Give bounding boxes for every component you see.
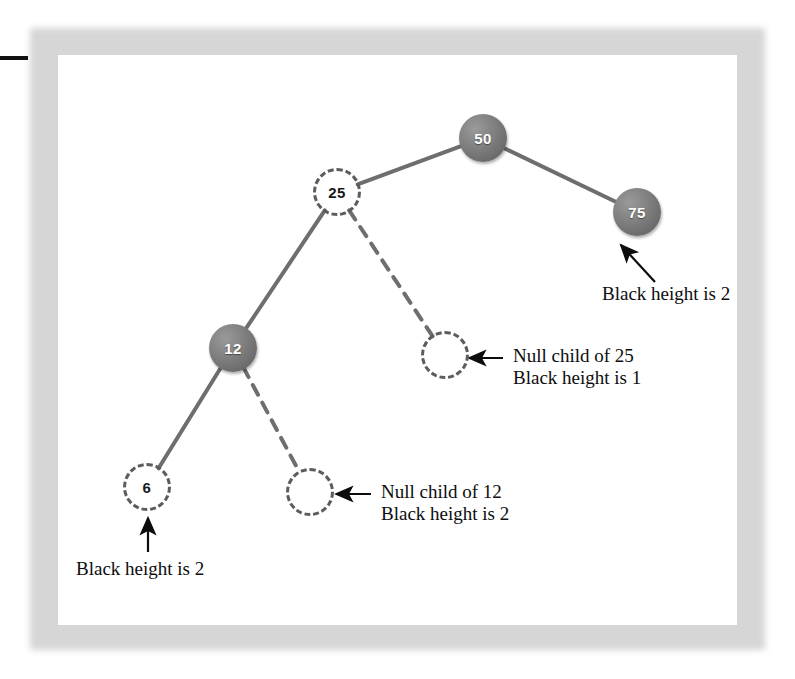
annotation-line: Black height is 2: [76, 558, 204, 580]
tree-node-label: 12: [224, 341, 242, 356]
annotation-line: Black height is 2: [381, 503, 509, 525]
tree-edge-n12-to-n6: [159, 367, 222, 469]
tree-node-null12[interactable]: [286, 468, 334, 516]
tree-node-label: 6: [143, 480, 152, 495]
tree-node-label: 75: [628, 205, 646, 220]
tree-node-75[interactable]: 75: [613, 188, 661, 236]
tree-node-12[interactable]: 12: [209, 324, 257, 372]
annotation-line: Null child of 25: [513, 345, 641, 367]
annotation-line: Black height is 1: [513, 367, 641, 389]
tree-edge-n25-to-null25: [349, 210, 433, 336]
tree-node-6[interactable]: 6: [123, 463, 171, 511]
annotation-ann-null25: Null child of 25Black height is 1: [513, 345, 641, 390]
tree-node-null25[interactable]: [421, 331, 469, 379]
annotation-ann-null12: Null child of 12Black height is 2: [381, 481, 509, 526]
tree-node-label: 50: [474, 131, 492, 146]
figure-page: 502575126 Black height is 2Null child of…: [0, 0, 795, 679]
tree-node-25[interactable]: 25: [313, 168, 361, 216]
annotation-arrow-ann-75: [621, 245, 655, 282]
tree-edge-n50-to-n75: [503, 148, 617, 203]
tree-node-50[interactable]: 50: [459, 114, 507, 162]
edge-layer: [159, 146, 618, 473]
tree-node-label: 25: [328, 185, 346, 200]
annotation-line: Null child of 12: [381, 481, 509, 503]
annotation-ann-75: Black height is 2: [602, 283, 730, 305]
annotation-line: Black height is 2: [602, 283, 730, 305]
tree-edge-n50-to-n25: [358, 146, 463, 185]
tree-edge-n12-to-null12: [243, 367, 299, 472]
annotation-ann-6: Black height is 2: [76, 558, 204, 580]
tree-edge-n25-to-n12: [245, 210, 325, 329]
